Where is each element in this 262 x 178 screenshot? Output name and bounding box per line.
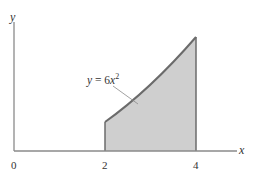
curve-label-exp: 2 [115,72,119,81]
y-axis-label: y [9,10,16,24]
tick-2: 2 [102,159,108,171]
shaded-region [105,37,196,151]
tick-0: 0 [11,159,17,171]
curve-label-eq: = 6 [92,74,110,86]
curve-label: y = 6x2 [86,72,119,87]
label-leader-line [113,86,138,104]
x-axis-label: x [238,143,245,157]
tick-4: 4 [193,159,199,171]
area-diagram: y x 0 2 4 y = 6x2 [0,0,262,178]
